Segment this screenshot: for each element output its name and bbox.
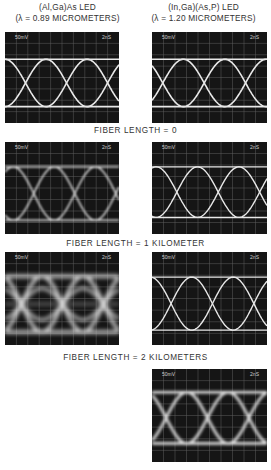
fiber-length-label-1km: FIBER LENGTH = 1 KILOMETER: [0, 239, 271, 248]
column-header-line2: (λ = 0.89 MICROMETERS): [0, 13, 135, 24]
time-per-div-label: 2nS: [102, 254, 111, 260]
eye-diagram-algaas-0km: 50mV 2nS: [5, 32, 119, 123]
time-per-div-label: 2nS: [250, 34, 259, 40]
column-header-line1: (In,Ga)(As,P) LED: [136, 2, 271, 13]
eye-diagram-algaas-1km: 50mV 2nS: [5, 142, 119, 234]
volts-per-div-label: 50mV: [15, 34, 28, 40]
volts-per-div-label: 50mV: [162, 144, 175, 150]
volts-per-div-label: 50mV: [162, 254, 175, 260]
fiber-length-label-0: FIBER LENGTH = 0: [0, 126, 271, 135]
volts-per-div-label: 50mV: [162, 34, 175, 40]
time-per-div-label: 2nS: [250, 371, 259, 377]
column-header-line2: (λ = 1.20 MICROMETERS): [136, 13, 271, 24]
fiber-length-label-2km: FIBER LENGTH = 2 KILOMETERS: [0, 353, 271, 362]
column-header-ingaasp: (In,Ga)(As,P) LED (λ = 1.20 MICROMETERS): [136, 2, 271, 24]
time-per-div-label: 2nS: [250, 144, 259, 150]
eye-diagram-ingaasp-1km: 50mV 2nS: [152, 142, 267, 234]
eye-diagram-algaas-2km: 50mV 2nS: [5, 252, 119, 345]
column-header-line1: (Al,Ga)As LED: [0, 2, 135, 13]
time-per-div-label: 2nS: [102, 144, 111, 150]
time-per-div-label: 2nS: [102, 34, 111, 40]
eye-diagram-ingaasp-0km: 50mV 2nS: [152, 32, 267, 123]
time-per-div-label: 2nS: [250, 254, 259, 260]
eye-diagram-ingaasp-2km: 50mV 2nS: [152, 252, 267, 345]
volts-per-div-label: 50mV: [15, 254, 28, 260]
volts-per-div-label: 50mV: [15, 144, 28, 150]
volts-per-div-label: 50mV: [162, 371, 175, 377]
eye-diagram-ingaasp-extra: 50mV 2nS: [152, 369, 267, 462]
column-header-algaas: (Al,Ga)As LED (λ = 0.89 MICROMETERS): [0, 2, 135, 24]
